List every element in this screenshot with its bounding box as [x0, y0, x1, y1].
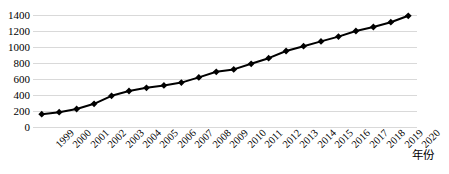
data-series	[33, 0, 417, 130]
data-point-marker	[353, 28, 360, 35]
x-axis-title: 年份	[412, 146, 434, 162]
y-axis-tick-label: 1200	[0, 26, 30, 37]
data-point-marker	[178, 79, 185, 86]
y-axis-tick-label: 400	[0, 90, 30, 101]
data-point-marker	[248, 60, 255, 67]
data-point-marker	[387, 19, 394, 26]
line-chart: 0200400600800100012001400 19992000200120…	[0, 0, 449, 174]
data-point-marker	[318, 38, 325, 45]
x-axis: 1999200020012002200320042005200620072008…	[33, 128, 417, 168]
data-point-marker	[126, 88, 133, 95]
y-axis-tick-label: 600	[0, 74, 30, 85]
y-axis-tick-label: 0	[0, 122, 30, 133]
data-point-marker	[73, 106, 80, 113]
data-point-marker	[143, 84, 150, 91]
y-axis: 0200400600800100012001400	[0, 0, 30, 130]
y-axis-tick-label: 800	[0, 58, 30, 69]
data-point-marker	[230, 66, 237, 73]
y-axis-tick-label: 1400	[0, 10, 30, 21]
data-point-marker	[300, 43, 307, 50]
data-point-marker	[265, 55, 272, 62]
plot-area	[33, 0, 417, 130]
data-point-marker	[38, 111, 45, 118]
data-point-marker	[91, 100, 98, 107]
data-point-marker	[370, 24, 377, 31]
data-point-marker	[405, 12, 412, 19]
data-point-marker	[335, 33, 342, 40]
data-point-marker	[195, 74, 202, 81]
data-point-marker	[108, 92, 115, 99]
data-point-marker	[56, 109, 63, 116]
data-point-marker	[283, 48, 290, 55]
data-point-marker	[213, 68, 220, 75]
y-axis-tick-label: 1000	[0, 42, 30, 53]
y-axis-tick-label: 200	[0, 106, 30, 117]
data-point-marker	[161, 82, 168, 89]
